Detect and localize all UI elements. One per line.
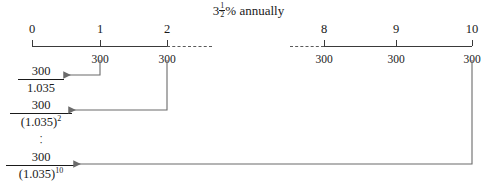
axis-tick-8 xyxy=(324,40,325,46)
pv-denominator-10: (1.035)10 xyxy=(6,165,76,182)
period-label-0: 0 xyxy=(20,23,44,36)
pv-numerator-10: 300 xyxy=(6,150,76,165)
pv-numerator-1: 300 xyxy=(18,64,64,79)
vertical-ellipsis: · · xyxy=(10,133,72,145)
period-label-9: 9 xyxy=(384,23,408,36)
period-label-2: 2 xyxy=(155,23,179,36)
period-label-10: 10 xyxy=(458,23,486,36)
pv-denominator-1: 1.035 xyxy=(18,79,64,96)
axis-dash-right xyxy=(290,46,324,47)
pv-denominator-10-exponent: 10 xyxy=(55,166,63,175)
axis-line-left xyxy=(32,46,167,47)
payment-label-10: 300 xyxy=(458,53,486,65)
present-value-term-1: 300 1.035 xyxy=(18,64,64,96)
pv-denominator-10-base: (1.035) xyxy=(19,167,55,181)
axis-tick-9 xyxy=(396,40,397,46)
pv-numerator-2: 300 xyxy=(10,98,72,113)
axis-tick-0 xyxy=(32,40,33,46)
payment-label-2: 300 xyxy=(153,53,181,65)
axis-dash-left xyxy=(167,46,212,47)
pv-denominator-2-exponent: 2 xyxy=(57,114,61,123)
axis-tick-2 xyxy=(167,40,168,46)
axis-tick-1 xyxy=(100,40,101,46)
period-label-8: 8 xyxy=(312,23,336,36)
period-label-1: 1 xyxy=(88,23,112,36)
axis-line-right xyxy=(324,46,472,47)
connector-period-2 xyxy=(69,60,167,110)
present-value-term-2: 300 (1.035)2 xyxy=(10,98,72,130)
connector-period-10 xyxy=(74,60,472,164)
axis-tick-10 xyxy=(472,40,473,46)
interest-rate: 312% annually xyxy=(213,2,284,19)
figure-title: 312% annually xyxy=(0,2,497,19)
present-value-timeline-figure: 312% annually 0 1 2 300 300 8 9 10 300 3… xyxy=(0,0,497,186)
pv-denominator-2: (1.035)2 xyxy=(10,113,72,130)
pv-denominator-2-base: (1.035) xyxy=(21,115,57,129)
rate-suffix: % annually xyxy=(225,3,284,18)
payment-label-1: 300 xyxy=(86,53,114,65)
payment-label-9: 300 xyxy=(382,53,410,65)
present-value-term-10: 300 (1.035)10 xyxy=(6,150,76,182)
payment-label-8: 300 xyxy=(310,53,338,65)
ellipsis-dot-2: · xyxy=(10,139,72,145)
